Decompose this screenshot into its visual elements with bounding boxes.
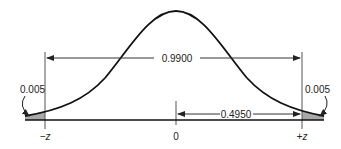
right-tail-label: 0.005 [305,84,330,95]
left-tail-label: 0.005 [20,84,45,95]
left-tail-callout-arrow [22,96,29,116]
left-z-label: −z [40,131,51,142]
center-area-label: 0.9900 [162,53,193,64]
center-zero-label: 0 [173,131,179,142]
normal-curve-diagram: 0.9900 0.4950 0.005 0.005 −z 0 +z [0,0,341,149]
right-z-label: +z [297,131,308,142]
right-tail-callout-arrow [320,96,327,116]
half-area-label: 0.4950 [221,109,252,120]
